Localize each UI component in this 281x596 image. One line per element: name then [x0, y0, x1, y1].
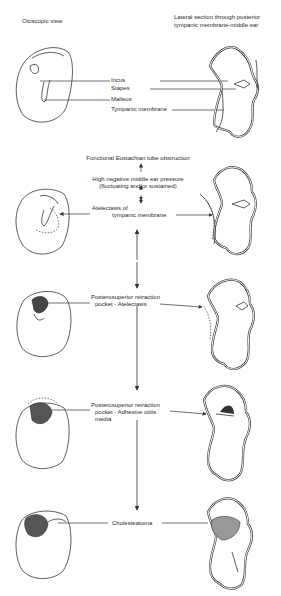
- otoscopic-normal: [16, 48, 72, 123]
- section-retraction-pocket: [204, 280, 254, 369]
- flow-step-negative-pressure-line1: High negative middle ear pressure: [78, 176, 198, 183]
- otoscopic-atelectasis: [16, 189, 69, 254]
- otoscopic-adhesive: [16, 398, 69, 469]
- flow-step-eustachian-obstruction: Functional Eustachian tube obstruction: [78, 155, 198, 162]
- flow-step-atelectasis-line1: Atelectasis of: [92, 205, 128, 212]
- label-stapes: Stapes: [111, 85, 130, 92]
- section-atelectasis: [200, 167, 256, 254]
- header-otoscopic-view: Otoscopic view: [22, 18, 62, 25]
- flow-step-adhesive-line2: pocket - Adhesive otitis: [95, 409, 156, 416]
- section-cholesteatoma: [208, 498, 252, 588]
- label-incus: Incus: [111, 77, 125, 84]
- flow-step-adhesive-line1: Posterosuperior retraction: [91, 402, 160, 409]
- label-tympanic-membrane: Tympanic membrane: [111, 106, 167, 113]
- header-lateral-section-line1: Lateral section through posterior: [174, 14, 260, 21]
- flow-step-atelectasis-line2: tympanic membrane: [112, 212, 166, 219]
- section-normal: [210, 47, 258, 137]
- section-adhesive: [204, 386, 250, 480]
- flow-step-cholesteatoma: Cholesteatoma: [112, 520, 152, 527]
- flow-step-adhesive-line3: media: [95, 416, 111, 423]
- flow-step-negative-pressure-line2: (fluctuating and/or sustained): [78, 183, 198, 190]
- otoscopic-retraction-pocket: [17, 291, 71, 356]
- flow-step-retraction-atelectasis-line2: pocket - Atelectasis: [95, 301, 147, 308]
- otoscopic-cholesteatoma: [16, 511, 71, 579]
- label-malleus: Malleus: [111, 96, 132, 103]
- header-lateral-section-line2: tympanic membrane-middle ear: [174, 22, 258, 29]
- flow-step-retraction-atelectasis-line1: Posterosuperior retraction: [91, 294, 160, 301]
